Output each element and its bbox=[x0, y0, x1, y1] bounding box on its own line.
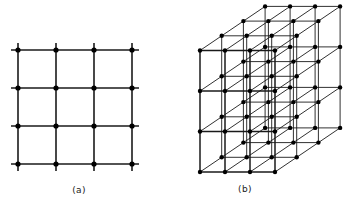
lattice-node bbox=[270, 74, 274, 78]
lattice-figure: (a) (b) bbox=[0, 0, 357, 207]
lattice-node bbox=[313, 45, 317, 49]
lattice-node bbox=[338, 4, 342, 8]
lattice-node bbox=[288, 126, 292, 130]
lattice-node bbox=[91, 85, 96, 90]
lattice-node bbox=[313, 126, 317, 130]
lattice-node bbox=[245, 74, 249, 78]
lattice-node bbox=[241, 100, 245, 104]
lattice-node bbox=[266, 59, 270, 63]
lattice-node bbox=[273, 170, 277, 174]
lattice-node bbox=[295, 115, 299, 119]
lattice-node bbox=[266, 140, 270, 144]
caption-panel-a: (a) bbox=[72, 185, 86, 195]
lattice-node bbox=[53, 47, 58, 52]
lattice-node bbox=[295, 155, 299, 159]
lattice-node bbox=[273, 129, 277, 133]
lattice-node bbox=[291, 19, 295, 23]
lattice-node bbox=[53, 85, 58, 90]
lattice-node bbox=[223, 89, 227, 93]
lattice-node bbox=[316, 19, 320, 23]
lattice-node bbox=[263, 126, 267, 130]
lattice-node bbox=[270, 155, 274, 159]
lattice-node bbox=[129, 123, 134, 128]
lattice-node bbox=[198, 48, 202, 52]
lattice-node bbox=[248, 48, 252, 52]
lattice-node bbox=[316, 59, 320, 63]
lattice-node bbox=[91, 161, 96, 166]
lattice-node bbox=[291, 100, 295, 104]
lattice-node bbox=[15, 123, 20, 128]
lattice-node bbox=[248, 89, 252, 93]
lattice-node bbox=[270, 115, 274, 119]
lattice-node bbox=[129, 47, 134, 52]
lattice-node bbox=[291, 140, 295, 144]
lattice-node bbox=[338, 45, 342, 49]
lattice-node bbox=[263, 4, 267, 8]
lattice-node bbox=[198, 89, 202, 93]
lattice-node bbox=[15, 85, 20, 90]
lattice-node bbox=[288, 45, 292, 49]
lattice-node bbox=[338, 126, 342, 130]
lattice-node bbox=[270, 34, 274, 38]
lattice-node bbox=[241, 140, 245, 144]
lattice-node bbox=[220, 34, 224, 38]
lattice-node bbox=[248, 129, 252, 133]
lattice-node bbox=[291, 59, 295, 63]
lattice-node bbox=[288, 85, 292, 89]
lattice-node bbox=[248, 170, 252, 174]
lattice-node bbox=[220, 115, 224, 119]
lattice-node bbox=[220, 155, 224, 159]
lattice-node bbox=[313, 4, 317, 8]
lattice-node bbox=[15, 47, 20, 52]
caption-panel-b: (b) bbox=[238, 184, 252, 194]
lattice-node bbox=[241, 59, 245, 63]
lattice-node bbox=[245, 155, 249, 159]
lattice-node bbox=[273, 48, 277, 52]
lattice-node bbox=[198, 129, 202, 133]
lattice-node bbox=[53, 161, 58, 166]
lattice-node bbox=[266, 100, 270, 104]
lattice-node bbox=[288, 4, 292, 8]
lattice-node bbox=[91, 123, 96, 128]
lattice-node bbox=[241, 19, 245, 23]
lattice-node bbox=[263, 85, 267, 89]
lattice-node bbox=[295, 34, 299, 38]
lattice-node bbox=[53, 123, 58, 128]
lattice-node bbox=[223, 129, 227, 133]
lattice-node bbox=[316, 140, 320, 144]
lattice-node bbox=[15, 161, 20, 166]
lattice-node bbox=[245, 115, 249, 119]
lattice-node bbox=[313, 85, 317, 89]
lattice-node bbox=[263, 45, 267, 49]
lattice-node bbox=[266, 19, 270, 23]
lattice-node bbox=[273, 89, 277, 93]
lattice-node bbox=[198, 170, 202, 174]
lattice-node bbox=[129, 85, 134, 90]
lattice-node bbox=[129, 161, 134, 166]
lattice-node bbox=[91, 47, 96, 52]
lattice-node bbox=[245, 34, 249, 38]
lattice-node bbox=[220, 74, 224, 78]
lattice-node bbox=[316, 100, 320, 104]
figure-container: (a) (b) bbox=[0, 0, 357, 207]
lattice-node bbox=[223, 48, 227, 52]
lattice-node bbox=[223, 170, 227, 174]
lattice-node bbox=[338, 85, 342, 89]
lattice-node bbox=[295, 74, 299, 78]
